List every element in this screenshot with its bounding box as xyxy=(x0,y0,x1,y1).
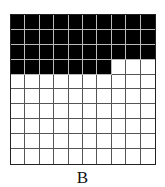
unshaded-cell xyxy=(54,104,68,119)
shaded-cell xyxy=(11,45,25,60)
shaded-cell xyxy=(97,60,111,75)
shaded-cell xyxy=(11,30,25,45)
shaded-cell xyxy=(83,45,97,60)
unshaded-cell xyxy=(25,89,39,104)
unshaded-cell xyxy=(112,89,126,104)
shaded-cell xyxy=(54,45,68,60)
unshaded-cell xyxy=(97,104,111,119)
unshaded-cell xyxy=(54,149,68,164)
unshaded-cell xyxy=(40,75,54,90)
shaded-cell xyxy=(112,45,126,60)
unshaded-cell xyxy=(83,134,97,149)
shaded-cell xyxy=(69,60,83,75)
unshaded-cell xyxy=(126,60,140,75)
unshaded-cell xyxy=(141,134,155,149)
unshaded-cell xyxy=(97,149,111,164)
shaded-cell xyxy=(141,15,155,30)
unshaded-cell xyxy=(112,119,126,134)
unshaded-cell xyxy=(97,89,111,104)
figure-label: B xyxy=(0,168,165,187)
unshaded-cell xyxy=(69,119,83,134)
shaded-cell xyxy=(83,30,97,45)
shaded-cell xyxy=(83,60,97,75)
unshaded-cell xyxy=(11,89,25,104)
unshaded-cell xyxy=(69,134,83,149)
unshaded-cell xyxy=(97,119,111,134)
unshaded-cell xyxy=(112,134,126,149)
shaded-cell xyxy=(69,30,83,45)
unshaded-cell xyxy=(69,89,83,104)
unshaded-cell xyxy=(11,134,25,149)
unshaded-cell xyxy=(112,75,126,90)
hundred-grid xyxy=(10,14,156,165)
unshaded-cell xyxy=(69,104,83,119)
unshaded-cell xyxy=(54,89,68,104)
unshaded-cell xyxy=(126,134,140,149)
unshaded-cell xyxy=(126,89,140,104)
unshaded-cell xyxy=(25,149,39,164)
shaded-cell xyxy=(97,45,111,60)
unshaded-cell xyxy=(126,104,140,119)
shaded-cell xyxy=(25,45,39,60)
shaded-cell xyxy=(40,60,54,75)
unshaded-cell xyxy=(25,104,39,119)
unshaded-cell xyxy=(112,60,126,75)
shaded-cell xyxy=(112,30,126,45)
unshaded-cell xyxy=(83,89,97,104)
shaded-cell xyxy=(25,30,39,45)
unshaded-cell xyxy=(11,104,25,119)
unshaded-cell xyxy=(54,75,68,90)
shaded-cell xyxy=(11,15,25,30)
unshaded-cell xyxy=(97,75,111,90)
unshaded-cell xyxy=(141,75,155,90)
shaded-cell xyxy=(69,45,83,60)
unshaded-cell xyxy=(69,149,83,164)
unshaded-cell xyxy=(11,119,25,134)
shaded-cell xyxy=(126,30,140,45)
unshaded-cell xyxy=(141,60,155,75)
shaded-cell xyxy=(141,30,155,45)
unshaded-cell xyxy=(11,75,25,90)
unshaded-cell xyxy=(54,119,68,134)
unshaded-cell xyxy=(54,134,68,149)
unshaded-cell xyxy=(40,104,54,119)
shaded-cell xyxy=(54,30,68,45)
unshaded-cell xyxy=(25,119,39,134)
unshaded-cell xyxy=(126,75,140,90)
shaded-cell xyxy=(112,15,126,30)
unshaded-cell xyxy=(141,119,155,134)
shaded-cell xyxy=(97,30,111,45)
shaded-cell xyxy=(126,45,140,60)
unshaded-cell xyxy=(40,134,54,149)
shaded-cell xyxy=(40,15,54,30)
shaded-cell xyxy=(97,15,111,30)
shaded-cell xyxy=(11,60,25,75)
unshaded-cell xyxy=(40,89,54,104)
unshaded-cell xyxy=(83,104,97,119)
shaded-cell xyxy=(54,60,68,75)
shaded-cell xyxy=(25,15,39,30)
shaded-cell xyxy=(40,30,54,45)
shaded-cell xyxy=(69,15,83,30)
unshaded-cell xyxy=(126,119,140,134)
unshaded-cell xyxy=(25,75,39,90)
unshaded-cell xyxy=(69,75,83,90)
unshaded-cell xyxy=(40,149,54,164)
unshaded-cell xyxy=(83,149,97,164)
shaded-cell xyxy=(40,45,54,60)
unshaded-cell xyxy=(126,149,140,164)
unshaded-cell xyxy=(112,104,126,119)
unshaded-cell xyxy=(40,119,54,134)
shaded-cell xyxy=(25,60,39,75)
unshaded-cell xyxy=(97,134,111,149)
unshaded-cell xyxy=(112,149,126,164)
unshaded-cell xyxy=(25,134,39,149)
unshaded-cell xyxy=(141,104,155,119)
shaded-cell xyxy=(126,15,140,30)
unshaded-cell xyxy=(141,149,155,164)
unshaded-cell xyxy=(83,119,97,134)
shaded-cell xyxy=(141,45,155,60)
unshaded-cell xyxy=(83,75,97,90)
shaded-cell xyxy=(54,15,68,30)
unshaded-cell xyxy=(11,149,25,164)
